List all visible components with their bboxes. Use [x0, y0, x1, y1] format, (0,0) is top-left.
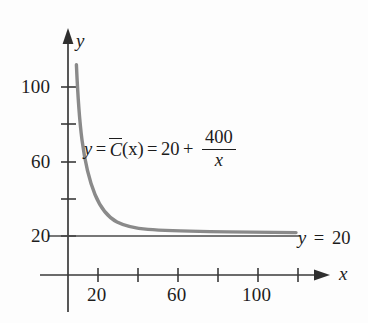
average-cost-function-figure: 100 60 20 20 60 100 y x y = C (x) = 20 +…	[0, 0, 368, 323]
x-tick-label-60: 60	[167, 285, 186, 304]
equation-equals-1: =	[96, 139, 106, 160]
x-axis	[40, 270, 330, 281]
equation-constant: 20	[161, 139, 180, 160]
y-tick-label-20: 20	[31, 226, 50, 245]
y-tick-label-60: 60	[31, 152, 50, 171]
x-tick-label-20: 20	[87, 285, 106, 304]
y-axis	[63, 28, 74, 312]
y-axis-label: y	[76, 31, 84, 50]
fraction-denominator: x	[215, 150, 223, 171]
asymptote-annotation: y = 20	[298, 228, 350, 249]
fraction-numerator: 400	[203, 128, 235, 149]
y-tick-label-100: 100	[21, 77, 50, 96]
equation-function-name: C	[110, 139, 122, 161]
curve-equation-annotation: y = C (x) = 20 + 400 x	[84, 128, 236, 171]
asymptote-equals: =	[314, 228, 324, 248]
equation-plus: +	[183, 139, 193, 160]
equation-lhs: y	[84, 139, 92, 160]
asymptote-value: 20	[332, 228, 351, 248]
equation-fraction: 400 x	[202, 128, 236, 171]
equation-equals-2: =	[147, 139, 157, 160]
x-axis-label: x	[339, 264, 347, 283]
x-tick-label-100: 100	[242, 285, 271, 304]
equation-argument: (x)	[122, 139, 144, 160]
asymptote-variable: y	[298, 228, 306, 248]
